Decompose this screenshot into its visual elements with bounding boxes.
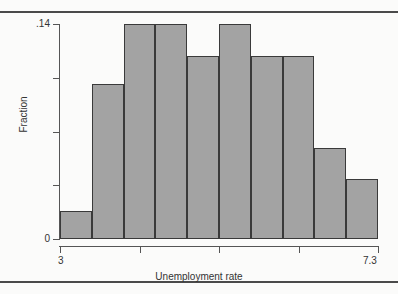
histogram-bar <box>155 24 187 239</box>
histogram-bar <box>346 179 378 239</box>
x-axis-tick <box>219 247 220 253</box>
scanned-page-background: Fraction Unemployment rate 0.1437.3 <box>0 0 398 294</box>
y-axis-tick <box>53 24 59 25</box>
histogram-chart: Fraction Unemployment rate 0.1437.3 <box>0 14 398 280</box>
x-axis-tick <box>378 247 379 253</box>
histogram-bar <box>60 211 92 239</box>
y-axis-tick <box>53 132 59 133</box>
x-axis-tick-label: 3 <box>58 256 64 266</box>
histogram-bar <box>92 84 124 239</box>
y-axis-tick <box>53 239 59 240</box>
page-rule-top <box>0 11 398 13</box>
y-axis-title: Fraction <box>18 75 29 155</box>
y-axis-tick-label: 0 <box>44 234 50 244</box>
histogram-bar <box>219 24 251 239</box>
y-axis-tick <box>53 78 59 79</box>
histogram-bar <box>251 56 283 239</box>
histogram-bar <box>124 24 156 239</box>
x-axis-tick <box>299 247 300 253</box>
x-axis-tick-label: 7.3 <box>363 256 377 266</box>
y-axis-tick <box>53 185 59 186</box>
x-axis-tick <box>140 247 141 253</box>
histogram-bar <box>314 148 346 239</box>
x-axis-tick <box>60 247 61 253</box>
x-axis-title: Unemployment rate <box>0 271 398 282</box>
y-axis-tick-label: .14 <box>36 19 50 29</box>
histogram-bar <box>283 56 315 239</box>
plot-area <box>60 24 378 239</box>
histogram-bar <box>187 56 219 239</box>
